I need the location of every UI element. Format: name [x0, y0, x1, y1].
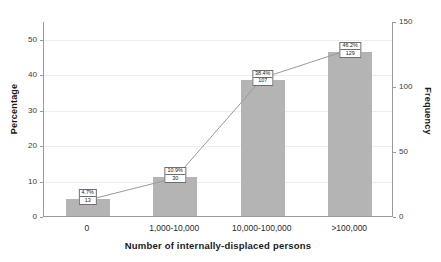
data-label: 4.7%13: [79, 189, 97, 205]
data-label: 46.2%129: [340, 42, 361, 58]
data-label: 38.4%107: [252, 70, 273, 86]
data-label: 10.9%30: [165, 167, 186, 183]
y-axis-right-tick-label: 150: [399, 17, 425, 26]
data-label-frequency: 129: [343, 51, 358, 57]
x-axis-category-label: 10,000-100,000: [218, 223, 306, 233]
y-axis-left-tick-label: 10: [15, 177, 37, 186]
data-label-frequency: 30: [168, 176, 183, 182]
y-axis-right-tick-mark: [393, 152, 396, 153]
y-axis-left-tick-mark: [40, 111, 43, 112]
y-axis-left-tick-label: 0: [15, 212, 37, 221]
data-label-frequency: 13: [82, 198, 94, 204]
x-axis-title: Number of internally-displaced persons: [43, 240, 393, 251]
bar: [328, 52, 372, 216]
y-axis-right-tick-label: 100: [399, 82, 425, 91]
y-axis-left-tick-label: 20: [15, 141, 37, 150]
x-axis-category-label: 0: [43, 223, 131, 233]
plot-area: 4.7%1310.9%3038.4%10746.2%129: [43, 22, 393, 217]
data-label-percent: 38.4%: [255, 71, 270, 77]
y-axis-right-tick-mark: [393, 217, 396, 218]
y-axis-right-tick-label: 50: [399, 147, 425, 156]
data-label-percent: 10.9%: [168, 168, 183, 174]
chart-container: Percentage Frequency Number of internall…: [0, 0, 441, 262]
bar: [241, 80, 285, 216]
y-axis-left-tick-mark: [40, 146, 43, 147]
y-axis-left-tick-label: 30: [15, 106, 37, 115]
y-axis-right-tick-label: 0: [399, 212, 425, 221]
x-axis-category-label: 1,000-10,000: [131, 223, 219, 233]
data-label-percent: 46.2%: [343, 43, 358, 49]
data-label-percent: 4.7%: [82, 190, 94, 196]
y-axis-left-tick-mark: [40, 217, 43, 218]
y-axis-right-tick-mark: [393, 22, 396, 23]
y-axis-left-tick-label: 40: [15, 70, 37, 79]
y-axis-left-tick-label: 50: [15, 35, 37, 44]
y-axis-left-tick-mark: [40, 75, 43, 76]
y-axis-left-tick-mark: [40, 182, 43, 183]
data-label-frequency: 107: [255, 78, 270, 84]
gridline: [44, 40, 392, 41]
frequency-polyline: [88, 49, 351, 200]
y-axis-right-tick-mark: [393, 87, 396, 88]
x-axis-category-label: >100,000: [306, 223, 394, 233]
y-axis-left-tick-mark: [40, 40, 43, 41]
